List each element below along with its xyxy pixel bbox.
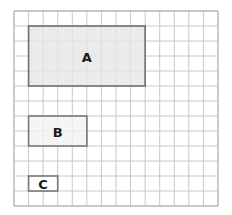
rectangle-a-label: A	[82, 50, 92, 65]
rectangle-a: A	[29, 26, 146, 86]
rectangle-b-label: B	[53, 125, 63, 140]
rectangle-c-label: C	[38, 177, 48, 192]
rectangle-c: C	[29, 176, 58, 192]
grid-diagram: A B C	[0, 0, 232, 215]
rectangle-b: B	[29, 116, 87, 146]
